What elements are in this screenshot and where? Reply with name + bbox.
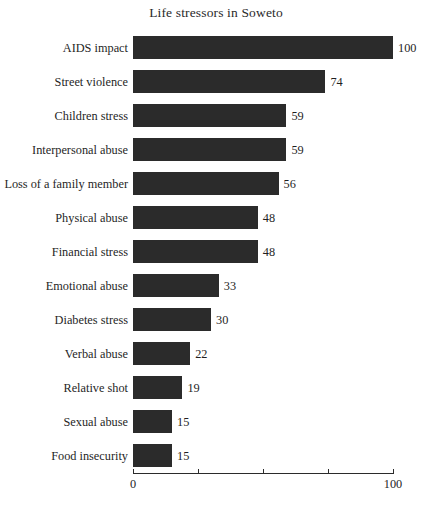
- axis-tick: [328, 469, 329, 474]
- category-label: Financial stress: [0, 235, 128, 269]
- bar-container: 15: [133, 410, 393, 433]
- category-label: Interpersonal abuse: [0, 133, 128, 167]
- axis-tick: [198, 469, 199, 474]
- bar: [133, 104, 286, 127]
- bar: [133, 70, 325, 93]
- bar: [133, 410, 172, 433]
- bar-container: 100: [133, 36, 393, 59]
- category-label: Sexual abuse: [0, 405, 128, 439]
- bar-container: 74: [133, 70, 393, 93]
- bar-container: 59: [133, 138, 393, 161]
- bar: [133, 240, 258, 263]
- category-label: Children stress: [0, 99, 128, 133]
- bar-row: AIDS impact100: [0, 31, 432, 65]
- category-label: Physical abuse: [0, 201, 128, 235]
- category-label: Relative shot: [0, 371, 128, 405]
- bar: [133, 206, 258, 229]
- bar: [133, 172, 279, 195]
- bar: [133, 36, 393, 59]
- bar: [133, 138, 286, 161]
- bar-row: Diabetes stress30: [0, 303, 432, 337]
- bar-value-label: 59: [286, 104, 303, 127]
- bar: [133, 376, 182, 399]
- bar-value-label: 33: [219, 274, 236, 297]
- bar-value-label: 56: [279, 172, 296, 195]
- bar-row: Physical abuse48: [0, 201, 432, 235]
- x-axis: 0100: [0, 473, 432, 508]
- category-label: Emotional abuse: [0, 269, 128, 303]
- bar-value-label: 74: [325, 70, 342, 93]
- plot-area: AIDS impact100Street violence74Children …: [0, 31, 432, 473]
- bar-value-label: 48: [258, 240, 275, 263]
- axis-tick: [133, 469, 134, 474]
- bar-value-label: 15: [172, 444, 189, 467]
- bar-row: Food insecurity15: [0, 439, 432, 473]
- bar-value-label: 59: [286, 138, 303, 161]
- bar-row: Sexual abuse15: [0, 405, 432, 439]
- category-label: Street violence: [0, 65, 128, 99]
- bar-container: 56: [133, 172, 393, 195]
- bar-container: 48: [133, 206, 393, 229]
- bar-value-label: 19: [182, 376, 199, 399]
- bar: [133, 342, 190, 365]
- bar: [133, 308, 211, 331]
- bar-container: 59: [133, 104, 393, 127]
- bar-container: 30: [133, 308, 393, 331]
- chart-title: Life stressors in Soweto: [0, 5, 432, 21]
- bar-row: Verbal abuse22: [0, 337, 432, 371]
- axis-tick-label: 100: [384, 477, 402, 492]
- category-label: Diabetes stress: [0, 303, 128, 337]
- bar-row: Loss of a family member56: [0, 167, 432, 201]
- category-label: Verbal abuse: [0, 337, 128, 371]
- bar-row: Interpersonal abuse59: [0, 133, 432, 167]
- bar-container: 22: [133, 342, 393, 365]
- bar: [133, 274, 219, 297]
- bar-value-label: 48: [258, 206, 275, 229]
- bar-row: Children stress59: [0, 99, 432, 133]
- axis-tick: [263, 469, 264, 474]
- bar-value-label: 22: [190, 342, 207, 365]
- bar-row: Street violence74: [0, 65, 432, 99]
- bar-value-label: 15: [172, 410, 189, 433]
- bar-chart-figure: Life stressors in Soweto AIDS impact100S…: [0, 0, 432, 508]
- axis-tick-label: 0: [130, 477, 136, 492]
- bar-value-label: 30: [211, 308, 228, 331]
- category-label: Food insecurity: [0, 439, 128, 473]
- bar-row: Emotional abuse33: [0, 269, 432, 303]
- bar-container: 15: [133, 444, 393, 467]
- category-label: AIDS impact: [0, 31, 128, 65]
- bar-container: 48: [133, 240, 393, 263]
- category-label: Loss of a family member: [0, 167, 128, 201]
- bar-row: Relative shot19: [0, 371, 432, 405]
- bar-container: 33: [133, 274, 393, 297]
- bar-container: 19: [133, 376, 393, 399]
- axis-tick: [393, 469, 394, 474]
- bar-value-label: 100: [393, 36, 416, 59]
- bar-row: Financial stress48: [0, 235, 432, 269]
- bar: [133, 444, 172, 467]
